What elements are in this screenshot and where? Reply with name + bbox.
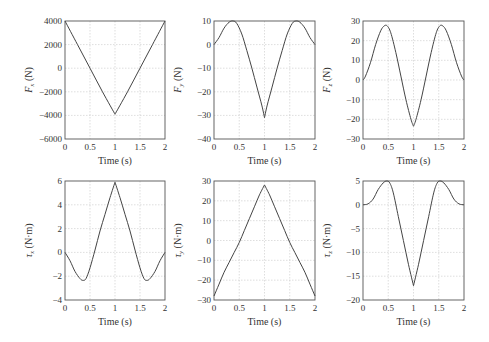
y-tick-label: 10 xyxy=(351,55,361,65)
axes-frame xyxy=(65,181,165,300)
y-tick-label: −20 xyxy=(346,295,361,305)
y-axis-label: Fy (N) xyxy=(172,67,185,94)
subplot-fx: 00.511.52400020000−2000−4000−6000Time (s… xyxy=(23,16,167,167)
x-tick-label: 0 xyxy=(361,142,366,152)
axes-frame xyxy=(363,181,464,300)
y-tick-label: 10 xyxy=(202,216,212,226)
y-tick-label: 2000 xyxy=(44,40,63,50)
subplot-fy: 00.511.52100−10−20−30−40Time (s)Fy (N) xyxy=(172,16,317,167)
x-tick-label: 0.5 xyxy=(234,142,246,152)
x-tick-label: 1.5 xyxy=(284,303,296,313)
y-label-unit: (N) xyxy=(23,67,35,83)
y-axis-label: τx (N·m) xyxy=(23,223,36,257)
y-axis-label: τz (N·m) xyxy=(321,224,334,258)
y-tick-label: −15 xyxy=(346,271,361,281)
y-tick-label: 0 xyxy=(356,200,361,210)
x-tick-label: 1.5 xyxy=(134,142,146,152)
x-tick-label: 0 xyxy=(63,303,68,313)
y-tick-label: 0 xyxy=(58,247,63,257)
subplot-fz: 00.511.523020100−10−20−30Time (s)Fz (N) xyxy=(321,16,466,167)
y-tick-label: 6 xyxy=(58,176,63,186)
x-tick-label: 1.5 xyxy=(433,142,445,152)
x-axis-label: Time (s) xyxy=(248,155,282,167)
y-label-unit: (N·m) xyxy=(321,224,333,252)
y-tick-label: −20 xyxy=(197,87,212,97)
subplot-tx: 00.511.526420−2−4Time (s)τx (N·m) xyxy=(23,176,167,328)
y-tick-label: 20 xyxy=(202,196,212,206)
y-tick-label: −30 xyxy=(197,110,212,120)
y-tick-label: −4000 xyxy=(39,110,63,120)
y-axis-label: τy (N·m) xyxy=(172,223,185,257)
x-tick-label: 0.5 xyxy=(383,303,395,313)
y-label-unit: (N·m) xyxy=(172,223,184,251)
y-label-unit: (N) xyxy=(172,67,184,83)
x-tick-label: 0.5 xyxy=(84,142,96,152)
y-tick-label: 4 xyxy=(58,200,63,210)
y-tick-label: −10 xyxy=(197,63,212,73)
y-tick-label: 30 xyxy=(351,16,361,26)
y-tick-label: −2 xyxy=(52,271,62,281)
y-tick-label: −10 xyxy=(346,95,361,105)
y-axis-label: Fx (N) xyxy=(23,67,36,94)
y-tick-label: −10 xyxy=(346,247,361,257)
y-tick-label: 5 xyxy=(356,176,361,186)
x-tick-label: 0.5 xyxy=(383,142,395,152)
y-tick-label: −2000 xyxy=(39,87,63,97)
y-tick-label: 2 xyxy=(58,224,63,234)
subplot-tz: 00.511.5250−5−10−15−20Time (s)τz (N·m) xyxy=(321,176,466,328)
x-tick-label: 0 xyxy=(212,142,217,152)
x-tick-label: 1 xyxy=(113,142,118,152)
y-label-unit: (N·m) xyxy=(23,223,35,251)
y-tick-label: 0 xyxy=(58,63,63,73)
y-tick-label: −10 xyxy=(197,255,212,265)
y-tick-label: −4 xyxy=(52,295,62,305)
y-tick-label: 0 xyxy=(207,40,212,50)
x-tick-label: 0.5 xyxy=(234,303,246,313)
x-tick-label: 0.5 xyxy=(84,303,96,313)
x-axis-label: Time (s) xyxy=(248,316,282,328)
y-tick-label: 0 xyxy=(356,75,361,85)
x-tick-label: 2 xyxy=(462,142,467,152)
x-tick-label: 2 xyxy=(313,142,318,152)
x-axis-label: Time (s) xyxy=(98,316,132,328)
y-tick-label: 20 xyxy=(351,36,361,46)
y-tick-label: −40 xyxy=(197,134,212,144)
x-tick-label: 0 xyxy=(361,303,366,313)
x-tick-label: 2 xyxy=(163,303,168,313)
x-axis-label: Time (s) xyxy=(98,155,132,167)
y-tick-label: 0 xyxy=(207,236,212,246)
x-tick-label: 1 xyxy=(262,303,267,313)
x-tick-label: 2 xyxy=(313,303,318,313)
y-tick-label: −20 xyxy=(197,275,212,285)
x-tick-label: 1.5 xyxy=(134,303,146,313)
y-tick-label: −30 xyxy=(197,295,212,305)
x-axis-label: Time (s) xyxy=(397,155,431,167)
subplot-ty: 00.511.523020100−10−20−30Time (s)τy (N·m… xyxy=(172,176,317,328)
y-tick-label: −20 xyxy=(346,114,361,124)
y-tick-label: 10 xyxy=(202,16,212,26)
y-axis-label: Fz (N) xyxy=(321,67,334,93)
x-axis-label: Time (s) xyxy=(397,316,431,328)
y-tick-label: −5 xyxy=(350,224,360,234)
x-tick-label: 1 xyxy=(411,303,416,313)
x-tick-label: 2 xyxy=(462,303,467,313)
x-tick-label: 1.5 xyxy=(433,303,445,313)
y-label-unit: (N) xyxy=(321,67,333,83)
x-tick-label: 1 xyxy=(262,142,267,152)
y-tick-label: 30 xyxy=(202,176,212,186)
x-tick-label: 0 xyxy=(63,142,68,152)
x-tick-label: 1.5 xyxy=(284,142,296,152)
y-tick-label: 4000 xyxy=(44,16,63,26)
x-tick-label: 0 xyxy=(212,303,217,313)
y-tick-label: −30 xyxy=(346,134,361,144)
x-tick-label: 2 xyxy=(163,142,168,152)
x-tick-label: 1 xyxy=(113,303,118,313)
figure: 00.511.52400020000−2000−4000−6000Time (s… xyxy=(0,0,489,342)
x-tick-label: 1 xyxy=(411,142,416,152)
y-tick-label: −6000 xyxy=(39,134,63,144)
